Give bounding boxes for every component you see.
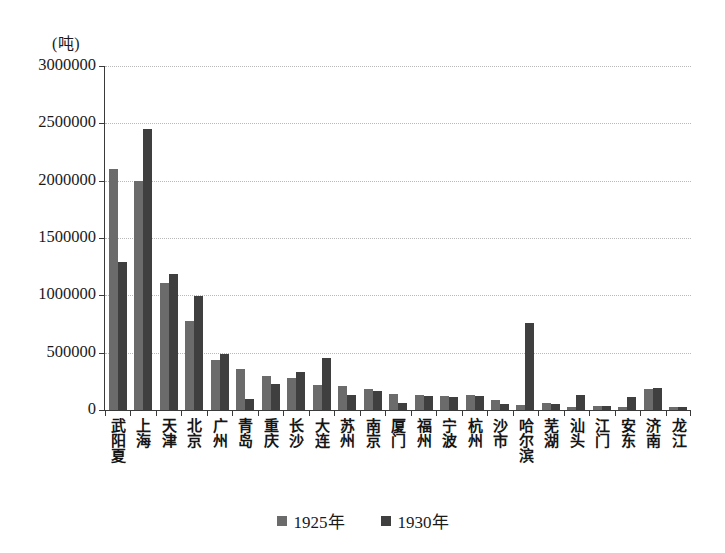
x-axis-label: 杭州 bbox=[466, 418, 481, 448]
legend-item[interactable]: 1925年 bbox=[277, 508, 345, 533]
x-axis-label-cell: 沙市 bbox=[486, 418, 511, 500]
bar-group bbox=[232, 66, 257, 410]
x-axis-tick bbox=[156, 410, 181, 416]
bar bbox=[440, 396, 449, 410]
bar bbox=[424, 396, 433, 410]
bar-group bbox=[283, 66, 308, 410]
x-axis-label: 上海 bbox=[135, 418, 150, 448]
x-axis-tick bbox=[232, 410, 257, 416]
legend-item[interactable]: 1930年 bbox=[381, 508, 449, 533]
x-axis-label-cell: 北京 bbox=[180, 418, 205, 500]
bar bbox=[466, 395, 475, 410]
plot-area: 0500000100000015000002000000250000030000… bbox=[104, 66, 691, 411]
bar bbox=[415, 395, 424, 410]
x-axis-tick bbox=[615, 410, 640, 416]
bar bbox=[194, 296, 203, 410]
y-axis-tick-label: 3000000 bbox=[38, 57, 96, 74]
bar bbox=[389, 394, 398, 410]
x-axis-tick bbox=[360, 410, 385, 416]
x-axis-label: 苏州 bbox=[338, 418, 353, 448]
bar-group bbox=[513, 66, 538, 410]
x-axis-label-cell: 杭州 bbox=[461, 418, 486, 500]
bar bbox=[296, 372, 305, 410]
x-axis-label: 广州 bbox=[211, 418, 226, 448]
x-axis-label-cell: 上海 bbox=[129, 418, 154, 500]
x-axis-label-cell: 武阳夏 bbox=[104, 418, 129, 500]
x-axis-tick bbox=[564, 410, 589, 416]
bar bbox=[576, 395, 585, 410]
x-axis-tick bbox=[105, 410, 130, 416]
bar bbox=[347, 395, 356, 410]
x-axis-label: 汕头 bbox=[568, 418, 583, 448]
x-axis-tick bbox=[130, 410, 155, 416]
bar bbox=[653, 388, 662, 410]
x-axis-label: 济南 bbox=[644, 418, 659, 448]
bar-group bbox=[640, 66, 665, 410]
y-axis-tick-label: 0 bbox=[88, 401, 96, 418]
bar-chart: (吨) 050000010000001500000200000025000003… bbox=[0, 0, 725, 553]
x-axis-tick bbox=[207, 410, 232, 416]
x-axis-label-cell: 江门 bbox=[588, 418, 613, 500]
bar-group bbox=[385, 66, 410, 410]
x-axis-label-cell: 南京 bbox=[359, 418, 384, 500]
bar bbox=[287, 378, 296, 410]
bar-group bbox=[156, 66, 181, 410]
x-axis-label-cell: 宁波 bbox=[435, 418, 460, 500]
x-axis-tick bbox=[258, 410, 283, 416]
bar-group bbox=[334, 66, 359, 410]
bar bbox=[271, 384, 280, 410]
x-axis-label: 江门 bbox=[593, 418, 608, 448]
bar bbox=[542, 403, 551, 410]
x-axis-label-cell: 厦门 bbox=[384, 418, 409, 500]
x-axis-label-cell: 重庆 bbox=[257, 418, 282, 500]
x-axis-label: 龙江 bbox=[670, 418, 685, 448]
square-swatch-icon bbox=[381, 516, 391, 526]
x-axis-label: 芜湖 bbox=[542, 418, 557, 448]
x-axis-label-cell: 福州 bbox=[410, 418, 435, 500]
x-axis-label: 武阳夏 bbox=[109, 418, 124, 463]
bar-group bbox=[105, 66, 130, 410]
x-axis-label: 重庆 bbox=[262, 418, 277, 448]
bar-group bbox=[615, 66, 640, 410]
x-axis-label: 长沙 bbox=[287, 418, 302, 448]
x-axis-label-cell: 安东 bbox=[614, 418, 639, 500]
x-axis-tick bbox=[640, 410, 665, 416]
bar bbox=[525, 323, 534, 410]
x-axis-label-cell: 广州 bbox=[206, 418, 231, 500]
y-axis-tick-label: 1000000 bbox=[38, 287, 96, 304]
x-axis-tick bbox=[487, 410, 512, 416]
bar bbox=[313, 385, 322, 410]
bar bbox=[373, 391, 382, 410]
x-axis-label: 沙市 bbox=[491, 418, 506, 448]
bar bbox=[627, 397, 636, 410]
bar-group bbox=[666, 66, 691, 410]
bar bbox=[491, 400, 500, 410]
x-axis-tick bbox=[666, 410, 691, 416]
bar bbox=[644, 389, 653, 410]
bar bbox=[118, 262, 127, 410]
x-axis-label: 厦门 bbox=[389, 418, 404, 448]
y-axis-tick-label: 500000 bbox=[47, 344, 97, 361]
bar bbox=[364, 389, 373, 410]
bar bbox=[220, 354, 229, 410]
bar bbox=[398, 403, 407, 410]
bars-layer bbox=[105, 66, 691, 410]
x-axis-tick bbox=[283, 410, 308, 416]
square-swatch-icon bbox=[277, 516, 287, 526]
x-axis-ticks bbox=[105, 410, 691, 416]
bar-group bbox=[130, 66, 155, 410]
x-axis-label-cell: 哈尔滨 bbox=[512, 418, 537, 500]
x-axis-label-cell: 苏州 bbox=[333, 418, 358, 500]
bar bbox=[134, 181, 143, 410]
bar-group bbox=[360, 66, 385, 410]
bar bbox=[322, 358, 331, 410]
x-axis-label: 大连 bbox=[313, 418, 328, 448]
bar-group bbox=[207, 66, 232, 410]
bar-group bbox=[258, 66, 283, 410]
x-axis-label-cell: 济南 bbox=[639, 418, 664, 500]
x-axis-label: 北京 bbox=[186, 418, 201, 448]
x-axis-label-cell: 青岛 bbox=[231, 418, 256, 500]
bar bbox=[449, 397, 458, 410]
x-axis-label: 宁波 bbox=[440, 418, 455, 448]
x-axis-tick bbox=[436, 410, 461, 416]
